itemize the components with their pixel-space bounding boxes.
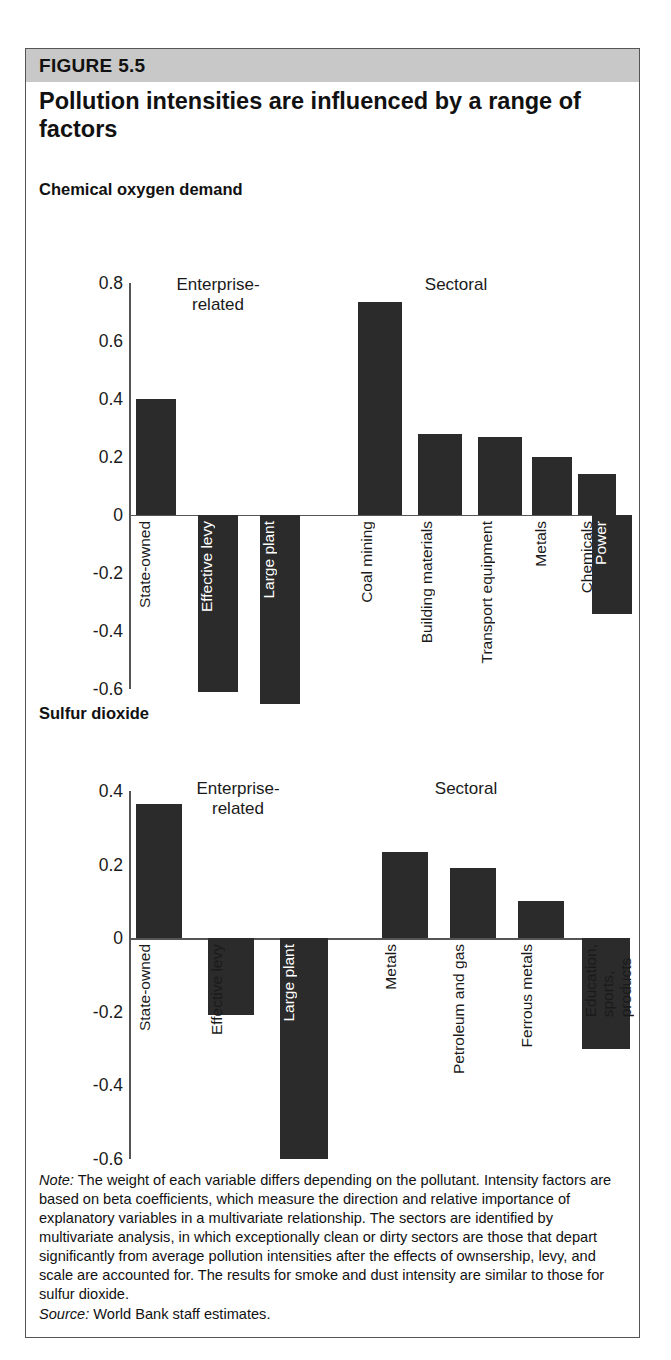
note-body: The weight of each variable differs depe…: [39, 1172, 611, 1302]
y-axis-tick-label: -0.6: [63, 1149, 123, 1170]
figure-title: Pollution intensities are influenced by …: [39, 87, 619, 143]
y-axis-tick-label: -0.4: [63, 1075, 123, 1096]
bar: [578, 474, 616, 515]
bar-category-label: Ferrous metals: [518, 944, 564, 1047]
chart-1-subtitle: Chemical oxygen demand: [39, 180, 243, 199]
y-axis-line: [129, 791, 131, 1159]
note-paragraph: Note: The weight of each variable differ…: [39, 1171, 629, 1304]
bar-category-label: Petroleum and gas: [450, 944, 496, 1074]
bar: [136, 804, 182, 938]
bar-category-label: Metals: [382, 944, 428, 990]
bar: [418, 434, 462, 515]
chart-sulfur-dioxide: 0.40.20-0.2-0.4-0.6Enterprise- relatedSe…: [26, 729, 641, 1179]
bar: [478, 437, 522, 515]
y-axis-tick-label: -0.2: [63, 563, 123, 584]
bar-category-label: Large plant: [280, 944, 328, 1022]
chart-group-label: Enterprise- related: [196, 779, 279, 818]
bar-category-label: Power: [592, 521, 632, 565]
chart-2-subtitle: Sulfur dioxide: [39, 704, 149, 723]
y-axis-tick-label: -0.2: [63, 1001, 123, 1022]
bar: [450, 868, 496, 938]
chart-chemical-oxygen-demand: 0.80.60.40.20-0.2-0.4-0.6Enterprise- rel…: [26, 209, 641, 689]
bar: [532, 457, 572, 515]
bar-category-label: Large plant: [260, 521, 300, 599]
y-axis-tick-label: 0: [63, 505, 123, 526]
y-axis-tick-label: 0.6: [63, 331, 123, 352]
figure-notes: Note: The weight of each variable differ…: [39, 1171, 629, 1324]
chart-group-label: Sectoral: [435, 779, 497, 799]
bar: [136, 399, 176, 515]
y-axis-tick-label: 0.2: [63, 447, 123, 468]
figure-page: FIGURE 5.5 Pollution intensities are inf…: [0, 0, 671, 1360]
bar-category-label: Transport equipment: [478, 521, 522, 663]
bar-category-label: State-owned: [136, 944, 182, 1031]
bar-category-label: Effective levy: [198, 521, 238, 612]
chart-1-plot-area: 0.80.60.40.20-0.2-0.4-0.6Enterprise- rel…: [26, 209, 641, 689]
y-axis-tick-label: -0.4: [63, 621, 123, 642]
y-axis-line: [129, 283, 131, 689]
zero-baseline: [129, 938, 626, 939]
figure-box: FIGURE 5.5 Pollution intensities are inf…: [25, 48, 640, 1338]
y-axis-tick-label: 0: [63, 928, 123, 949]
bar: [518, 901, 564, 938]
bar-category-label: Education, sports, products: [582, 944, 630, 1017]
bar: [382, 852, 428, 938]
y-axis-tick-label: 0.2: [63, 854, 123, 875]
bar-category-label: Coal mining: [358, 521, 402, 603]
bar-category-label: State-owned: [136, 521, 176, 608]
source-paragraph: Source: World Bank staff estimates.: [39, 1305, 629, 1324]
chart-group-label: Enterprise- related: [176, 275, 259, 314]
figure-number-label: FIGURE 5.5: [39, 55, 145, 77]
source-label: Source:: [39, 1306, 89, 1322]
source-body: World Bank staff estimates.: [89, 1306, 270, 1322]
bar-category-label: Building materials: [418, 521, 462, 643]
bar-category-label: Metals: [532, 521, 572, 567]
figure-number-band: FIGURE 5.5: [26, 49, 639, 82]
bar: [358, 302, 402, 515]
y-axis-tick-label: -0.6: [63, 679, 123, 700]
note-label: Note:: [39, 1172, 74, 1188]
chart-group-label: Sectoral: [425, 275, 487, 295]
bar-category-label: Effective levy: [208, 944, 254, 1035]
y-axis-tick-label: 0.4: [63, 781, 123, 802]
chart-2-plot-area: 0.40.20-0.2-0.4-0.6Enterprise- relatedSe…: [26, 729, 641, 1179]
y-axis-tick-label: 0.4: [63, 389, 123, 410]
y-axis-tick-label: 0.8: [63, 273, 123, 294]
